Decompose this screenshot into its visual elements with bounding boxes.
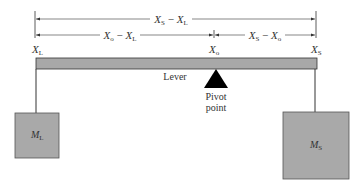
dimension-right: XS − Xo (215, 29, 315, 43)
pivot-triangle (204, 69, 228, 88)
svg-text:XS − XL: XS − XL (153, 13, 187, 27)
lever-diagram: XS − XL Xo − XL XS − Xo XL Xo XS Lever P… (0, 0, 360, 187)
pivot-label-line1: Pivot (205, 91, 226, 102)
xs-label: XS (310, 43, 322, 57)
svg-text:Xo − XL: Xo − XL (103, 29, 137, 43)
lever-bar (36, 58, 317, 69)
xo-label: Xo (208, 43, 220, 57)
xl-label: XL (31, 43, 43, 57)
dimension-left: Xo − XL (36, 29, 213, 43)
dimension-total: XS − XL (36, 13, 315, 27)
pivot-label-line2: point (206, 102, 227, 113)
lever-label: Lever (163, 71, 187, 82)
svg-text:XS − Xo: XS − Xo (248, 29, 282, 43)
